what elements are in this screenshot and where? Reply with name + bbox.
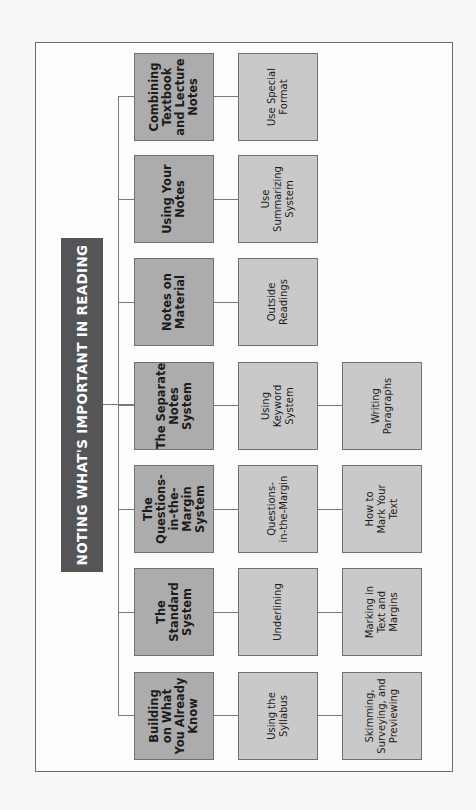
branch-label: Combining Textbook and Lecture Notes	[148, 53, 200, 141]
child-connector	[214, 199, 238, 200]
child-connector	[214, 612, 238, 613]
child-connector	[214, 715, 238, 716]
branch-label: Notes on Material	[161, 258, 187, 346]
leaf-label: Use Summarizing System	[260, 155, 296, 243]
leaf-label: How to Mark Your Text	[364, 465, 400, 553]
leaf-marking-in-text-and-margins: Marking in Text and Margins	[342, 568, 422, 656]
leaf-using-the-syllabus: Using the Syllabus	[238, 672, 318, 760]
branch-questions-in-margin-system: The Questions- in-the-Margin System	[134, 465, 214, 553]
branch-connector	[118, 405, 135, 406]
leaf-label: Outside Readings	[266, 258, 290, 346]
child-connector	[318, 509, 342, 510]
leaf-how-to-mark-your-text: How to Mark Your Text	[342, 465, 422, 553]
leaf-label: Use Special Format	[266, 53, 290, 141]
branch-label: Using Your Notes	[161, 155, 187, 243]
branch-combining-notes: Combining Textbook and Lecture Notes	[134, 53, 214, 141]
leaf-label: Using the Syllabus	[266, 672, 290, 760]
branch-label: The Separate Notes System	[155, 362, 194, 450]
child-connector	[318, 715, 342, 716]
leaf-label: Marking in Text and Margins	[364, 568, 400, 656]
branch-label: The Questions- in-the-Margin System	[142, 465, 207, 553]
leaf-underlining: Underlining	[238, 568, 318, 656]
diagram-title-box: NOTING WHAT'S IMPORTANT IN READING	[61, 238, 103, 572]
leaf-using-keyword-system: Using Keyword System	[238, 362, 318, 450]
child-connector	[214, 405, 238, 406]
diagram-title: NOTING WHAT'S IMPORTANT IN READING	[74, 238, 90, 572]
branch-connector	[118, 96, 135, 97]
branch-connector	[118, 612, 135, 613]
child-connector	[318, 405, 342, 406]
branch-connector	[118, 199, 135, 200]
spine-connector	[118, 96, 119, 716]
branch-building-on-what-you-know: Building on What You Already Know	[134, 672, 214, 760]
leaf-label: Writing Paragraphs	[370, 362, 394, 450]
branch-connector	[118, 715, 135, 716]
leaf-use-special-format: Use Special Format	[238, 53, 318, 141]
branch-connector	[118, 302, 135, 303]
branch-connector	[118, 509, 135, 510]
leaf-outside-readings: Outside Readings	[238, 258, 318, 346]
branch-using-your-notes: Using Your Notes	[134, 155, 214, 243]
branch-separate-notes-system: The Separate Notes System	[134, 362, 214, 450]
leaf-label: Underlining	[272, 568, 284, 656]
child-connector	[214, 302, 238, 303]
child-connector	[318, 612, 342, 613]
child-connector	[214, 96, 238, 97]
leaf-label: Skimming, Surveying, and Previewing	[364, 672, 400, 760]
branch-notes-on-material: Notes on Material	[134, 258, 214, 346]
leaf-writing-paragraphs: Writing Paragraphs	[342, 362, 422, 450]
branch-label: Building on What You Already Know	[148, 672, 200, 760]
branch-standard-system: The Standard System	[134, 568, 214, 656]
leaf-use-summarizing-system: Use Summarizing System	[238, 155, 318, 243]
branch-label: The Standard System	[155, 568, 194, 656]
child-connector	[214, 509, 238, 510]
leaf-questions-in-the-margin: Questions- in-the-Margin	[238, 465, 318, 553]
leaf-skimming-surveying-previewing: Skimming, Surveying, and Previewing	[342, 672, 422, 760]
leaf-label: Using Keyword System	[260, 362, 296, 450]
leaf-label: Questions- in-the-Margin	[266, 465, 290, 553]
